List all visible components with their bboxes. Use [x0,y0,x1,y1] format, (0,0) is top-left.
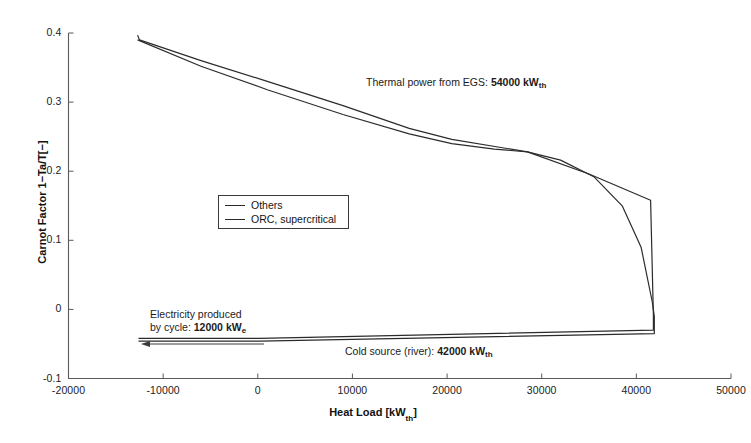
cold-source-label: Cold source (river): [345,345,437,357]
x-axis-title: Heat Load [kWth] [0,406,746,421]
x-axis-title-end: ] [413,406,417,418]
x-tick-label: -10000 [133,384,193,396]
legend-label-others: Others [251,199,283,211]
electricity-arrow [141,341,264,347]
legend-item-others: Others [225,198,283,212]
x-tick-label: 50000 [701,384,751,396]
x-axis-title-text: Heat Load [kW [329,406,405,418]
chart-legend: Others ORC, supercritical [218,195,349,229]
thermal-power-label: Thermal power from EGS: [366,76,491,88]
x-tick-label: 40000 [606,384,666,396]
legend-swatch-orc-icon [225,219,245,220]
electricity-label: by cycle: [150,321,194,333]
legend-item-orc: ORC, supercritical [225,212,336,226]
cold-source-annotation: Cold source (river): 42000 kWth [345,345,493,359]
electricity-unit-sub: e [242,326,246,335]
electricity-line2: by cycle: 12000 kWe [150,321,246,335]
arrow-head [141,341,150,347]
electricity-value: 12000 [194,321,223,333]
thermal-power-unit: kW [523,76,539,88]
cold-source-value: 42000 [437,345,466,357]
x-tick-label: 0 [228,384,288,396]
electricity-annotation: Electricity produced by cycle: 12000 kWe [150,308,246,335]
y-axis-ticks [69,33,74,379]
electricity-line1: Electricity produced [150,308,246,321]
y-tick-label: -0.1 [17,372,62,384]
x-axis-title-sub: th [406,414,414,423]
legend-label-orc: ORC, supercritical [251,213,336,225]
y-tick-label: 0.4 [17,26,62,38]
thermal-power-value: 54000 [491,76,520,88]
x-tick-label: 30000 [512,384,572,396]
x-axis-ticks [69,374,732,379]
thermal-power-unit-sub: th [539,81,547,90]
thermal-power-annotation: Thermal power from EGS: 54000 kWth [366,76,546,90]
x-tick-label: 10000 [322,384,382,396]
y-axis-title: Carnot Factor 1−Ta/T[−] [36,52,48,352]
electricity-unit: kW [226,321,242,333]
cold-source-unit: kW [469,345,485,357]
x-tick-label: 20000 [417,384,477,396]
legend-swatch-others-icon [225,205,245,206]
x-tick-label: -20000 [39,384,99,396]
cold-source-unit-sub: th [485,350,493,359]
